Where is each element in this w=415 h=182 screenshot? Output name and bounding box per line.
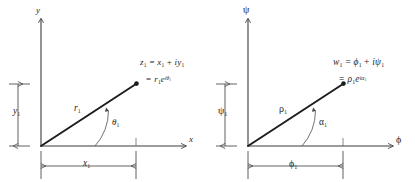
angle-arc-alpha1 bbox=[302, 111, 316, 147]
phi1-sub: 1 bbox=[294, 163, 297, 170]
w1-real-sub: 1 bbox=[359, 62, 362, 68]
z1-imag-sub: 1 bbox=[181, 62, 184, 68]
phi1-segment-label: ϕ1 bbox=[289, 159, 297, 170]
radius-vector-r1 bbox=[41, 84, 136, 146]
psi1-segment-label: ψ1 bbox=[218, 106, 227, 117]
z1-exp-angle-sub: 1 bbox=[169, 78, 171, 82]
radius-vector-rho1 bbox=[248, 84, 343, 146]
z1-equation-line1: z1=x1+iy1 bbox=[140, 58, 184, 68]
z1-equation-line2: =r1eiθ1 bbox=[146, 75, 171, 85]
point-z1 bbox=[134, 81, 139, 86]
x-axis-label: x bbox=[189, 135, 193, 144]
figure-vector-graphics bbox=[0, 0, 415, 182]
r1-radius-label: r1 bbox=[74, 104, 81, 115]
w1-imag-sub: 1 bbox=[381, 62, 384, 68]
w1-exp-angle-sub: 1 bbox=[364, 78, 366, 82]
psi1-sub: 1 bbox=[224, 110, 227, 117]
w1-eq-sign: = bbox=[345, 57, 351, 67]
r1-sub: 1 bbox=[78, 108, 81, 114]
theta1-sub: 1 bbox=[116, 122, 119, 128]
z1-exp-group: iθ1 bbox=[165, 75, 171, 81]
rho1-sub: 1 bbox=[284, 108, 287, 115]
theta1-angle-label: θ1 bbox=[112, 118, 119, 128]
rho1-radius-label: ρ1 bbox=[279, 104, 287, 115]
w1-plus-sign: + bbox=[364, 57, 370, 67]
alpha1-angle-label: α1 bbox=[319, 118, 327, 129]
panel-z-plane bbox=[9, 18, 187, 179]
y1-segment-label: y1 bbox=[13, 107, 20, 118]
x1-segment-label: x1 bbox=[83, 159, 90, 170]
angle-arc-theta1 bbox=[95, 111, 109, 147]
z1-plus-sign: + bbox=[167, 57, 172, 67]
w1-equation-line1: w1=ϕ1+iψ1 bbox=[333, 58, 384, 69]
x1-sub: 1 bbox=[87, 163, 90, 169]
y-axis-label: y bbox=[36, 6, 40, 15]
psi-axis-label: ψ bbox=[243, 5, 249, 15]
w1-eq2-sign: = bbox=[339, 74, 345, 84]
w1-lhs-sub: 1 bbox=[340, 62, 343, 68]
w1-exp-group: iα1 bbox=[360, 75, 367, 81]
w1-equation-line2: =ρ1eiα1 bbox=[339, 75, 366, 86]
y1-sub: 1 bbox=[17, 111, 20, 117]
z1-eq-sign: = bbox=[150, 57, 155, 67]
alpha1-sub: 1 bbox=[324, 122, 327, 128]
phi-axis-label: ϕ bbox=[396, 135, 401, 145]
z1-lhs-sub: 1 bbox=[144, 62, 147, 68]
z1-real-sub: 1 bbox=[161, 62, 164, 68]
panel-w-plane bbox=[216, 18, 394, 179]
complex-plane-figure: y x y1 x1 r1 θ1 z1=x1+iy1 =r1eiθ1 ψ ϕ ψ1… bbox=[0, 0, 415, 182]
z1-eq2-sign: = bbox=[146, 74, 151, 84]
